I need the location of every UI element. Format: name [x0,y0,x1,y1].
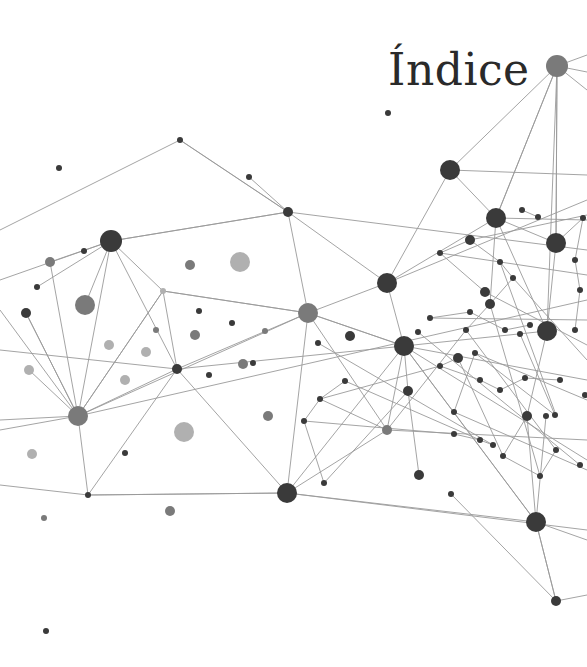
graph-node [298,303,318,323]
graph-node [453,353,463,363]
graph-node [165,506,175,516]
page-title: Índice [388,48,530,92]
graph-node [238,359,248,369]
graph-edge [470,312,505,330]
graph-node [206,372,212,378]
graph-edge [304,399,320,421]
graph-node [394,336,414,356]
graph-node [104,340,114,350]
graph-node [27,449,37,459]
graph-node [477,437,483,443]
graph-edge [547,66,557,331]
graph-node [437,250,443,256]
graph-node [100,230,122,252]
graph-node [572,327,578,333]
graph-node [582,392,587,398]
graph-node [497,259,503,265]
graph-node [526,512,546,532]
graph-node [427,315,433,321]
graph-decorative-edges [0,55,587,601]
graph-node [465,235,475,245]
graph-edge [78,241,111,416]
graph-node [196,308,202,314]
graph-node [580,215,586,221]
graph-node [577,287,583,293]
graph-node [510,275,516,281]
graph-edge [408,391,419,475]
graph-node [451,431,457,437]
graph-node [34,284,40,290]
graph-node [172,364,182,374]
graph-node [263,411,273,421]
graph-node [24,365,34,375]
graph-node [440,160,460,180]
graph-node [414,470,424,480]
graph-node [517,331,523,337]
graph-node [230,252,250,272]
graph-node [177,137,183,143]
graph-node [185,260,195,270]
graph-node [546,55,568,77]
graph-edge [466,304,490,330]
graph-node [262,328,268,334]
graph-node [45,257,55,267]
graph-node [250,360,256,366]
graph-node [321,480,327,486]
graph-node [497,387,503,393]
graph-node [477,377,483,383]
graph-node [403,386,413,396]
graph-node [342,378,348,384]
graph-node [301,418,307,424]
graph-node [122,450,128,456]
graph-node [535,214,541,220]
graph-node [277,483,297,503]
graph-edge [500,262,513,278]
graph-edge [575,260,580,290]
document-page: Índice [0,0,587,667]
graph-node [553,447,559,453]
graph-node [160,288,166,294]
graph-node [246,174,252,180]
graph-node [577,462,583,468]
graph-node [43,628,49,634]
graph-edge [304,421,324,483]
graph-edge [287,313,308,493]
graph-node [385,110,391,116]
graph-edge [287,430,387,493]
graph-node [81,248,87,254]
graph-edge [430,312,470,318]
graph-node [467,309,473,315]
graph-node [557,377,563,383]
graph-edge [505,325,530,330]
graph-edge [387,170,450,283]
graph-node [120,375,130,385]
graph-edge [470,240,500,262]
graph-node [502,327,508,333]
graph-node [68,406,88,426]
graph-node [537,473,543,479]
graph-node [345,331,355,341]
graph-edge [163,291,177,369]
graph-node [485,299,495,309]
graph-node [451,409,457,415]
graph-node [486,208,506,228]
graph-node [21,308,31,318]
graph-node [315,340,321,346]
graph-node [463,327,469,333]
graph-node [448,491,454,497]
graph-edge [288,212,308,313]
graph-node [522,375,528,381]
graph-edges [26,66,583,601]
graph-node [480,287,490,297]
graph-edge [308,283,387,313]
graph-node [437,363,443,369]
graph-node [382,425,392,435]
graph-node [190,330,200,340]
graph-node [490,442,496,448]
graph-node [377,273,397,293]
graph-node [85,492,91,498]
network-graph-illustration [0,0,587,667]
graph-edge [320,381,345,399]
graph-node [500,453,506,459]
graph-node [572,257,578,263]
